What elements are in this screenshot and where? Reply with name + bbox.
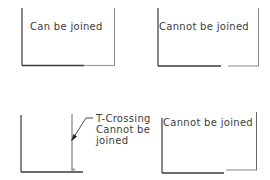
panel-cannot-be-joined-gap: Cannot be joined — [158, 8, 259, 66]
joining-rules-diagram: Can be joined Cannot be joined T-Crossin… — [0, 0, 270, 180]
label-can-be-joined: Can be joined — [30, 21, 103, 32]
panel-cannot-be-joined-offset: Cannot be joined — [162, 112, 257, 173]
callout-line-3: joined — [95, 135, 128, 146]
callout-line-1: T-Crossing — [95, 113, 151, 124]
panel-t-crossing: T-Crossing Cannot be joined — [21, 113, 151, 172]
label-cannot-be-joined-bottom: Cannot be joined — [163, 117, 253, 128]
callout-line-2: Cannot be — [96, 124, 150, 135]
label-cannot-be-joined-top: Cannot be joined — [159, 21, 249, 32]
panel-can-be-joined: Can be joined — [22, 8, 115, 66]
crossing-marker — [72, 169, 75, 171]
